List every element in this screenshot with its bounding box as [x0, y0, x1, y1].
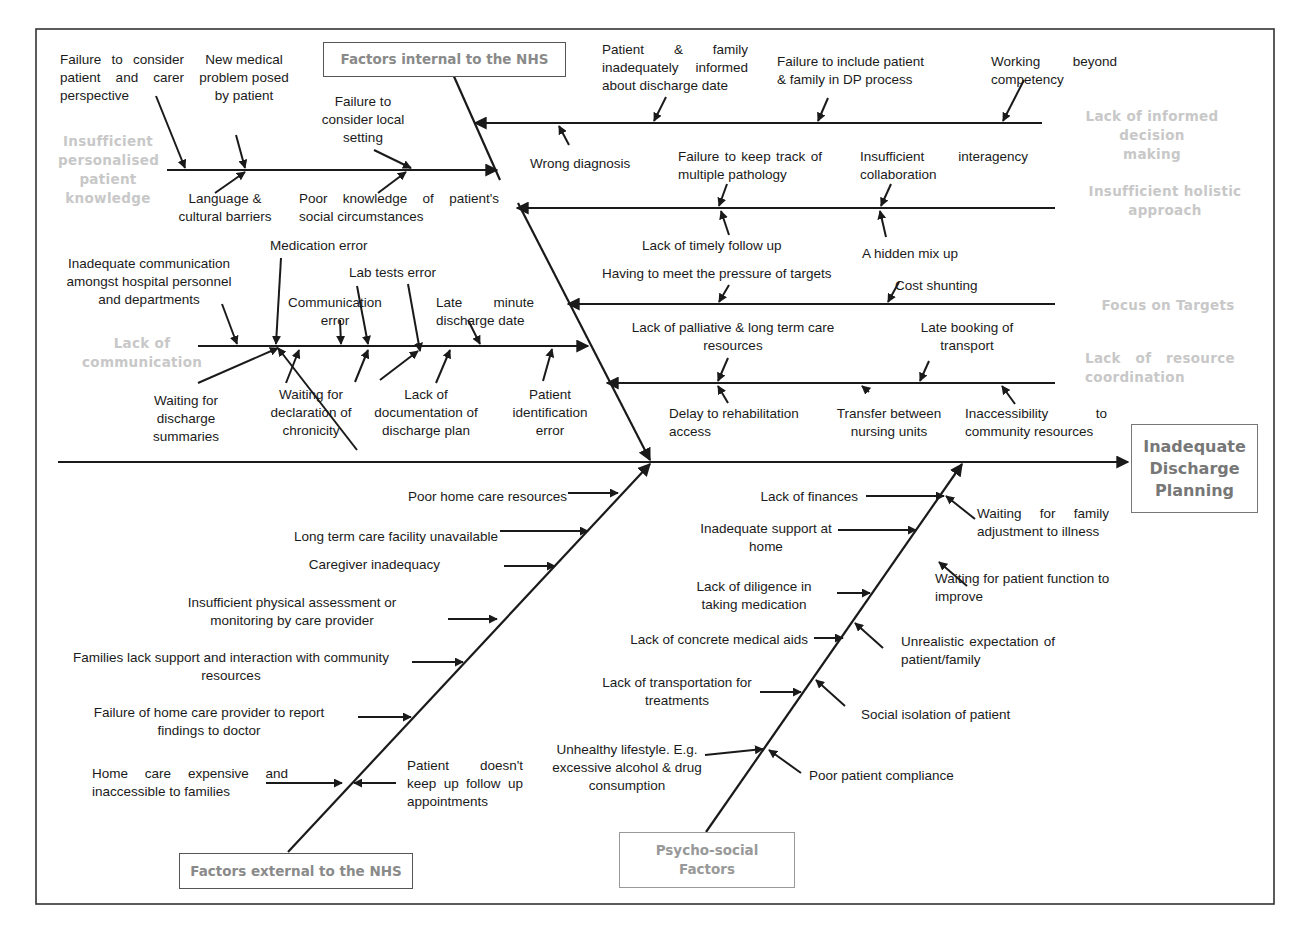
cause-label: Lab tests error: [349, 264, 459, 282]
cause-label: Lack of transportation for treatments: [598, 674, 756, 710]
external-factors-label: Factors external to the NHS: [190, 862, 402, 881]
cause-label: Cost shunting: [895, 277, 995, 295]
cause-label: Lack of palliative & long term care reso…: [617, 319, 849, 355]
category-line: patient: [58, 170, 158, 189]
category-line: Focus on Targets: [1101, 297, 1234, 313]
category-line: Insufficient: [58, 132, 158, 151]
psychosocial-line-1: Psycho-social: [656, 841, 759, 860]
cause-label: Delay to rehabilitation access: [669, 405, 819, 441]
cause-label: Social isolation of patient: [861, 706, 1041, 724]
cause-label: Patient doesn't keep up follow up appoin…: [407, 757, 523, 811]
category-personalised: Insufficient personalised patient knowle…: [58, 132, 158, 208]
effect-box: Inadequate Discharge Planning: [1131, 424, 1258, 513]
cause-label: Long term care facility unavailable: [250, 528, 498, 546]
cause-label: Patient & family inadequately informed a…: [602, 41, 748, 95]
cause-label: Failure to include patient & family in D…: [777, 53, 929, 89]
cause-label: Language & cultural barriers: [170, 190, 280, 226]
internal-diagonal-upper: [452, 72, 500, 180]
cause-label: Failure of home care provider to report …: [74, 704, 344, 740]
cause-label: Lack of documentation of discharge plan: [374, 386, 478, 440]
internal-factors-box: Factors internal to the NHS: [323, 42, 566, 77]
cause-label: Home care expensive and inaccessible to …: [92, 765, 288, 801]
cause-label: Wrong diagnosis: [530, 155, 650, 173]
cause-label: Lack of finances: [740, 488, 858, 506]
cause-label: Failure to consider patient and carer pe…: [60, 51, 184, 105]
category-line: Lack of: [82, 334, 202, 353]
category-line: knowledge: [58, 189, 158, 208]
cause-label: Poor patient compliance: [809, 767, 989, 785]
cause-label: Waiting for discharge summaries: [143, 392, 229, 446]
cause-label: Poor home care resources: [360, 488, 567, 506]
cause-label: Late booking of transport: [912, 319, 1022, 355]
category-communication: Lack of communication: [82, 334, 202, 372]
cause-label: Patient identification error: [508, 386, 592, 440]
category-informed: Lack of informed decision making: [1056, 107, 1248, 164]
cause-label: Working beyond competency: [991, 53, 1117, 89]
cause-label: A hidden mix up: [862, 245, 982, 263]
category-targets: Focus on Targets: [1098, 296, 1238, 315]
cause-label: Inaccessibility to community resources: [965, 405, 1107, 441]
cause-label: Caregiver inadequacy: [270, 556, 440, 574]
cause-label: Transfer between nursing units: [828, 405, 950, 441]
effect-line-3: Planning: [1155, 480, 1234, 502]
category-line: communication: [82, 353, 202, 372]
category-line: making: [1056, 145, 1248, 164]
category-resource: Lack of resource coordination: [1085, 349, 1235, 387]
cause-label: Unrealistic expectation of patient/famil…: [901, 633, 1055, 669]
cause-label: Unhealthy lifestyle. E.g. excessive alco…: [548, 741, 706, 795]
category-line: coordination: [1085, 368, 1235, 387]
category-line: Lack of resource: [1085, 349, 1235, 368]
category-line: personalised: [58, 151, 158, 170]
category-line: Lack of informed decision: [1056, 107, 1248, 145]
cause-label: Failure to consider local setting: [320, 93, 406, 147]
cause-label: Lack of concrete medical aids: [592, 631, 808, 649]
cause-label: Communication error: [282, 294, 388, 330]
internal-factors-label: Factors internal to the NHS: [341, 50, 549, 69]
external-factors-box: Factors external to the NHS: [179, 853, 413, 889]
cause-label: Failure to keep track of multiple pathol…: [678, 148, 822, 184]
cause-label: Late minute discharge date: [436, 294, 534, 330]
cause-label: Insufficient interagency collaboration: [860, 148, 1028, 184]
effect-line-2: Discharge: [1149, 458, 1239, 480]
category-line: approach: [1084, 201, 1246, 220]
cause-label: Having to meet the pressure of targets: [602, 265, 862, 283]
cause-label: Inadequate support at home: [688, 520, 844, 556]
effect-line-1: Inadequate: [1143, 436, 1246, 458]
psychosocial-factors-box: Psycho-social Factors: [619, 832, 795, 888]
cause-label: Lack of timely follow up: [642, 237, 802, 255]
cause-label: New medical problem posed by patient: [196, 51, 292, 105]
category-line: Insufficient holistic: [1084, 182, 1246, 201]
cause-label: Poor knowledge of patient's social circu…: [299, 190, 499, 226]
cause-label: Lack of diligence in taking medication: [684, 578, 824, 614]
cause-label: Insufficient physical assessment or moni…: [172, 594, 412, 630]
cause-label: Inadequate communication amongst hospita…: [58, 255, 240, 309]
cause-label: Waiting for patient function to improve: [935, 570, 1135, 606]
cause-label: Waiting for declaration of chronicity: [268, 386, 354, 440]
cause-label: Medication error: [270, 237, 390, 255]
cause-label: Waiting for family adjustment to illness: [977, 505, 1109, 541]
category-holistic: Insufficient holistic approach: [1084, 182, 1246, 220]
psychosocial-line-2: Factors: [679, 860, 735, 879]
cause-label: Families lack support and interaction wi…: [56, 649, 406, 685]
